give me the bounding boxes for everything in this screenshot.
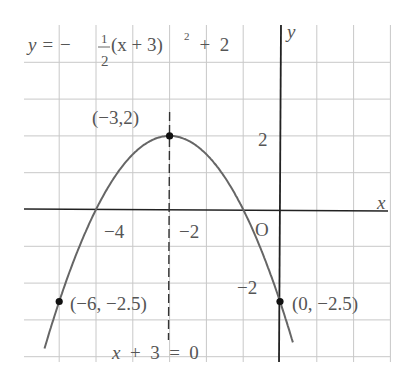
equation-prefix: y = − (26, 34, 72, 55)
equation-frac-den: 2 (101, 53, 109, 69)
x-axis (24, 209, 388, 211)
graph: y = − 1 2 (x + 3) 2 + 2 y x O −4 −2 2 −2… (0, 0, 415, 381)
data-point (276, 298, 283, 305)
x-tick-label: −2 (179, 221, 199, 242)
data-point (166, 132, 173, 139)
y-tick-label: 2 (258, 129, 268, 150)
y-tick-label: −2 (237, 277, 257, 298)
y-axis (279, 25, 281, 362)
y-axis-label: y (285, 21, 296, 42)
equation-exponent: 2 (184, 30, 190, 42)
symmetry-equation-label: x + 3 = 0 (111, 342, 199, 363)
data-point (56, 298, 63, 305)
equation-frac-num: 1 (101, 31, 108, 46)
point-label: (−6, −2.5) (70, 293, 147, 315)
point-label: (0, −2.5) (292, 293, 358, 315)
x-tick-label: −4 (104, 221, 125, 242)
equation-suffix: (x + 3) (111, 34, 163, 56)
x-axis-label: x (376, 192, 386, 213)
vertex-label: (−3,2) (92, 107, 139, 129)
origin-label: O (255, 219, 269, 240)
equation-tail: + 2 (190, 34, 229, 55)
equation-label: y = − 1 2 (x + 3) 2 + 2 (26, 30, 229, 69)
